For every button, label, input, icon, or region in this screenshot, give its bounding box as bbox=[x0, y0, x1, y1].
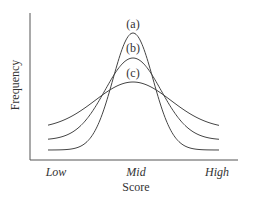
x-tick-mid: Mid bbox=[125, 165, 146, 179]
chart-svg: (a) (b) (c) Low Mid High Score Frequency bbox=[0, 0, 253, 203]
x-tick-low: Low bbox=[45, 165, 67, 179]
y-axis-title: Frequency bbox=[8, 60, 22, 111]
chart: (a) (b) (c) Low Mid High Score Frequency bbox=[0, 0, 253, 203]
curve-label-a: (a) bbox=[126, 17, 139, 31]
x-tick-high: High bbox=[204, 165, 229, 179]
curve-label-c: (c) bbox=[126, 66, 139, 80]
curve-c bbox=[48, 82, 219, 125]
x-axis-title: Score bbox=[122, 180, 149, 194]
curve-label-b: (b) bbox=[126, 41, 140, 55]
